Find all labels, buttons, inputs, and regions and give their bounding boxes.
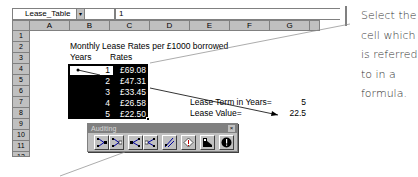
trace-precedents-button[interactable] <box>94 135 109 150</box>
row-header[interactable]: 2 <box>12 42 30 53</box>
rate-cell[interactable]: £22.50 <box>114 109 148 120</box>
column-header-b[interactable]: B <box>70 20 110 31</box>
lease-value-value[interactable]: 22.5 <box>289 108 306 118</box>
rate-cell[interactable]: £47.31 <box>114 76 148 87</box>
rate-cell[interactable]: £33.45 <box>114 87 148 98</box>
column-header-e[interactable]: E <box>190 20 230 31</box>
column-headers: A B C D E F G <box>12 20 320 31</box>
new-comment-icon <box>202 137 213 148</box>
circle-invalid-data-icon <box>221 137 232 148</box>
new-comment-button[interactable] <box>200 135 215 150</box>
trace-error-button[interactable] <box>181 135 196 150</box>
table-row[interactable]: 3 £33.45 <box>69 87 149 98</box>
remove-dependent-arrows-button[interactable] <box>143 135 158 150</box>
table-row[interactable]: 2 £47.31 <box>69 76 149 87</box>
remove-precedent-arrows-button[interactable] <box>109 135 124 150</box>
fill-handle[interactable] <box>146 117 150 121</box>
auditing-toolbar[interactable]: Auditing × <box>87 123 238 152</box>
toolbar-title: Auditing <box>91 125 116 132</box>
years-cell[interactable]: 3 <box>69 87 114 98</box>
column-header-f[interactable]: F <box>230 20 270 31</box>
row-header[interactable]: 12 <box>12 152 30 157</box>
row-header[interactable]: 5 <box>12 75 30 86</box>
lease-term-label[interactable]: Lease Term in Years= <box>190 97 272 107</box>
remove-precedent-arrows-icon <box>111 137 122 148</box>
trace-error-icon <box>183 137 194 148</box>
toolbar-title-bar[interactable]: Auditing × <box>88 124 237 133</box>
row-headers: 1 2 3 4 5 6 7 8 9 10 11 12 <box>12 31 30 157</box>
table-row[interactable]: 1 £69.08 <box>69 65 149 76</box>
row-header[interactable]: 8 <box>12 108 30 119</box>
remove-dependent-arrows-icon <box>145 137 156 148</box>
row-header[interactable]: 6 <box>12 86 30 97</box>
column-header-c[interactable]: C <box>110 20 150 31</box>
lease-term-value[interactable]: 5 <box>300 97 306 107</box>
name-box[interactable]: Lease_Table <box>12 8 84 20</box>
name-box-dropdown-icon[interactable]: ▾ <box>76 9 84 19</box>
trace-precedents-icon <box>96 137 107 148</box>
select-all-corner[interactable] <box>12 20 30 31</box>
years-cell[interactable]: 5 <box>69 109 114 120</box>
circle-invalid-data-button[interactable] <box>219 135 234 150</box>
column-header-a[interactable]: A <box>30 20 70 31</box>
row-header[interactable]: 4 <box>12 64 30 75</box>
rates-header-cell[interactable]: Rates <box>110 52 132 62</box>
rate-cell[interactable]: £69.08 <box>114 65 148 76</box>
trace-dependents-icon <box>130 137 141 148</box>
annotation-divider <box>345 6 347 26</box>
remove-all-arrows-icon <box>164 137 175 148</box>
table-row[interactable]: 4 £26.58 <box>69 98 149 109</box>
remove-all-arrows-button[interactable] <box>162 135 177 150</box>
row-header[interactable]: 3 <box>12 53 30 64</box>
years-header-cell[interactable]: Years <box>70 52 91 62</box>
column-header-g[interactable]: G <box>270 20 310 31</box>
column-header-d[interactable]: D <box>150 20 190 31</box>
spreadsheet: Lease_Table ▾ 1 A B C D E F G 1 2 3 4 5 … <box>0 0 340 177</box>
formula-input[interactable]: 1 <box>115 8 340 20</box>
years-cell[interactable]: 2 <box>69 76 114 87</box>
row-header[interactable]: 7 <box>12 97 30 108</box>
close-icon[interactable]: × <box>228 125 235 132</box>
table-row[interactable]: 5 £22.50 <box>69 109 149 120</box>
formula-bar-buttons <box>84 8 115 20</box>
row-header[interactable]: 11 <box>12 141 30 152</box>
trace-dependents-button[interactable] <box>128 135 143 150</box>
column-header-h[interactable] <box>310 20 320 31</box>
years-cell[interactable]: 4 <box>69 98 114 109</box>
row-header[interactable]: 10 <box>12 130 30 141</box>
rate-cell[interactable]: £26.58 <box>114 98 148 109</box>
lease-value-label[interactable]: Lease Value= <box>190 108 242 118</box>
sheet-title-cell[interactable]: Monthly Lease Rates per £1000 borrowed <box>70 41 228 51</box>
years-cell[interactable]: 1 <box>69 65 114 76</box>
row-header[interactable]: 9 <box>12 119 30 130</box>
lease-table-range[interactable]: 1 £69.08 2 £47.31 3 £33.45 4 £26.58 5 £2… <box>68 64 148 119</box>
row-header[interactable]: 1 <box>12 31 30 42</box>
annotation-text: Select the cell which is referred to in … <box>361 6 418 104</box>
